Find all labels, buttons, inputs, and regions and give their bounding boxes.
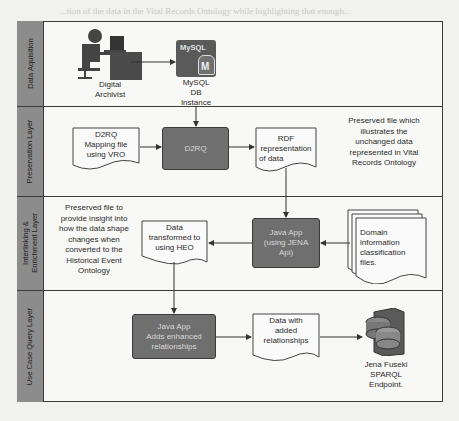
lane-divider	[17, 290, 443, 291]
lane-divider	[17, 106, 443, 107]
lane-title: Preservation Layer	[26, 119, 35, 183]
note-line: Historical Event	[52, 256, 136, 267]
note-line: illustrates the	[325, 127, 443, 138]
label-line: SPARQL	[355, 370, 417, 380]
digital-archivist-label: Digital Archivist	[80, 80, 140, 100]
label-line: relationships	[252, 336, 320, 346]
d2rq-process-box: D2RQ	[162, 127, 229, 170]
label-line: Archivist	[80, 90, 140, 100]
d2rq-mapping-file-document: D2RQ Mapping file using VRO	[72, 127, 140, 171]
java-app-jena-box: Java App (using JENA Api)	[252, 218, 320, 268]
note-line: unchanged data	[325, 137, 443, 148]
label-line: Endpoint.	[355, 380, 417, 390]
label-line: Digital	[80, 80, 140, 90]
label-line: of data	[255, 154, 317, 164]
label-line: Api)	[264, 248, 308, 258]
label-line: Jena Fuseki	[355, 360, 417, 370]
label-line: DB	[171, 88, 221, 98]
note-line: Preserved file to	[52, 203, 136, 214]
digital-archivist-icon	[74, 28, 146, 80]
label-line: added	[252, 326, 320, 336]
label-line: using VRO	[72, 150, 140, 160]
mysql-badge: MySQL	[180, 43, 206, 52]
database-cylinder-icon: M	[198, 55, 215, 75]
label-line: Mapping file	[72, 140, 140, 150]
background-page-bleed-text: ...tion of the data in the Vital Records…	[60, 6, 351, 16]
label-line: Java App	[264, 228, 308, 238]
preserved-file-note-heo: Preserved file to provide insight into h…	[52, 203, 136, 277]
lane-title: Use Case Query Layer	[26, 307, 35, 384]
lane-title-line: Enrichment Layer	[30, 213, 39, 273]
lane-divider	[17, 196, 443, 197]
note-line: Ontology	[52, 266, 136, 277]
label-line: Java App	[146, 322, 202, 332]
java-app-enhanced-box: Java App Adds enhanced relationships	[132, 314, 216, 359]
lane-label-data-acquisition: Data Aquisition	[17, 21, 44, 106]
label-line: Instance	[171, 98, 221, 108]
label-line: (using JENA	[264, 238, 308, 248]
data-added-relationships-document: Data with added relationships	[252, 313, 320, 363]
label-line: information	[360, 238, 426, 248]
fuseki-label: Jena Fuseki SPARQL Endpoint.	[355, 360, 417, 390]
label-line: classification	[360, 248, 426, 258]
mysql-db-icon: MySQL M	[176, 40, 216, 77]
box-label: D2RQ	[184, 144, 206, 154]
label-line: RDF	[255, 134, 317, 144]
lane-label-preservation: Preservation Layer	[17, 106, 44, 196]
label-line: Domain	[360, 228, 426, 238]
jena-fuseki-server-icon	[364, 308, 406, 356]
domain-classification-files-document: Domain information classification files.	[346, 208, 428, 284]
label-line: Adds enhanced	[146, 332, 202, 342]
label-line: Data with	[252, 316, 320, 326]
note-line: changes when	[52, 235, 136, 246]
lane-label-interlinking: Interlinking &Enrichment Layer	[17, 196, 44, 290]
lane-title: Interlinking &Enrichment Layer	[21, 213, 39, 273]
lane-label-use-case: Use Case Query Layer	[17, 290, 44, 402]
label-line: representation	[255, 144, 317, 154]
label-line: relationships	[146, 342, 202, 352]
note-line: Records Ontology	[325, 158, 443, 169]
lane-title: Data Aquisition	[26, 38, 35, 89]
data-transformed-heo-document: Data transformed to using HEO	[141, 220, 208, 266]
label-line: Data	[141, 223, 208, 233]
label-line: MySQL	[171, 78, 221, 88]
lane-title-line: Interlinking &	[21, 213, 30, 273]
label-line: transformed to	[141, 233, 208, 243]
rdf-representation-document: RDF representation of data	[255, 127, 317, 173]
note-line: provide insight into	[52, 214, 136, 225]
mysql-label: MySQL DB Instance	[171, 78, 221, 108]
db-letter: M	[201, 61, 209, 72]
preserved-file-note-vro: Preserved file which illustrates the unc…	[325, 116, 443, 169]
note-line: converted to the	[52, 245, 136, 256]
label-line: files.	[360, 258, 426, 268]
label-line: using HEO	[141, 243, 208, 253]
label-line: D2RQ	[72, 130, 140, 140]
note-line: Preserved file which	[325, 116, 443, 127]
note-line: how the data shape	[52, 224, 136, 235]
note-line: represented in Vital	[325, 148, 443, 159]
